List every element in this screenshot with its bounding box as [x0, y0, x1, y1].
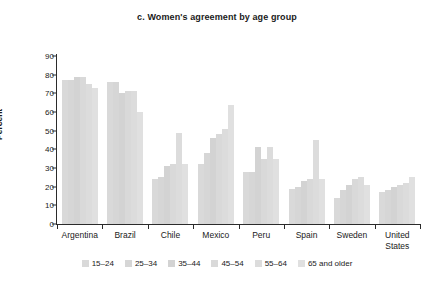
bar-group: [239, 56, 284, 224]
y-axis-tick-mark: [52, 93, 57, 94]
x-axis-tick-label: Chile: [148, 230, 193, 241]
bar: [409, 177, 415, 224]
legend-swatch-icon: [82, 260, 89, 267]
y-axis-tick-mark: [52, 74, 57, 75]
bar-group: [102, 56, 147, 224]
chart-title: c. Women's agreement by age group: [0, 12, 434, 22]
legend-label: 25–34: [135, 259, 157, 268]
y-axis-tick-mark: [52, 149, 57, 150]
legend-label: 65 and older: [308, 259, 352, 268]
x-axis-tick-label: Sweden: [329, 230, 374, 241]
x-axis-end-tick: [420, 224, 421, 229]
bar: [92, 88, 98, 224]
bar-group: [148, 56, 193, 224]
bar-group: [284, 56, 329, 224]
x-axis-group-separator: [284, 224, 285, 229]
x-axis-tick-label: Argentina: [57, 230, 102, 241]
bar: [182, 164, 188, 224]
legend-label: 55–64: [265, 259, 287, 268]
legend-label: 15–24: [92, 259, 114, 268]
legend-swatch-icon: [125, 260, 132, 267]
y-axis-tick-mark: [52, 56, 57, 57]
bar-group: [193, 56, 238, 224]
legend-swatch-icon: [298, 260, 305, 267]
x-axis-group-separator: [102, 224, 103, 229]
y-axis-tick-mark: [52, 130, 57, 131]
bar-group: [57, 56, 102, 224]
x-axis-group-separator: [329, 224, 330, 229]
x-axis-tick-label: Spain: [284, 230, 329, 241]
x-axis-end-tick: [57, 224, 58, 229]
x-axis-tick-label: Peru: [239, 230, 284, 241]
x-axis-group-separator: [148, 224, 149, 229]
legend-label: 35–44: [178, 259, 200, 268]
x-axis-group-separator: [239, 224, 240, 229]
x-axis-tick-label: United States: [375, 230, 420, 251]
legend-swatch-icon: [168, 260, 175, 267]
legend-item[interactable]: 45–54: [211, 259, 243, 268]
legend-swatch-icon: [255, 260, 262, 267]
legend-item[interactable]: 15–24: [82, 259, 114, 268]
legend-item[interactable]: 25–34: [125, 259, 157, 268]
bar: [273, 159, 279, 224]
bar-group: [375, 56, 420, 224]
x-axis-tick-label: Brazil: [102, 230, 147, 241]
x-axis-group-separator: [193, 224, 194, 229]
legend-item[interactable]: 35–44: [168, 259, 200, 268]
legend-swatch-icon: [211, 260, 218, 267]
x-axis-tick-label: Mexico: [193, 230, 238, 241]
chart-container: c. Women's agreement by age group Percen…: [0, 0, 434, 294]
legend-item[interactable]: 65 and older: [298, 259, 352, 268]
bar: [228, 105, 234, 224]
y-axis-tick-mark: [52, 112, 57, 113]
y-axis-tick-mark: [52, 186, 57, 187]
bar: [137, 112, 143, 224]
chart-legend: 15–2425–3435–4445–5455–6465 and older: [0, 259, 434, 268]
legend-label: 45–54: [221, 259, 243, 268]
bar-group: [329, 56, 374, 224]
x-axis-group-separator: [375, 224, 376, 229]
legend-item[interactable]: 55–64: [255, 259, 287, 268]
y-axis-tick-mark: [52, 168, 57, 169]
y-axis-tick-mark: [52, 205, 57, 206]
y-axis-ticks: 0102030405060708090: [0, 0, 54, 294]
bar: [364, 185, 370, 224]
bar: [319, 179, 325, 224]
